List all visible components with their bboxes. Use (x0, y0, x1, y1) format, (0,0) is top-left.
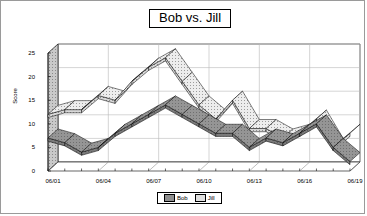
plot-area (1, 1, 366, 215)
legend-label: Bob (177, 195, 188, 202)
chart-legend: BobJill (157, 192, 222, 204)
legend-entry[interactable]: Bob (164, 194, 188, 202)
legend-swatch (164, 194, 175, 202)
legend-entry[interactable]: Jill (195, 194, 215, 202)
chart-frame: Bob vs. Jill Score 0510152025 06/0106/04… (0, 0, 365, 214)
legend-swatch (195, 194, 206, 202)
legend-label: Jill (208, 195, 215, 202)
